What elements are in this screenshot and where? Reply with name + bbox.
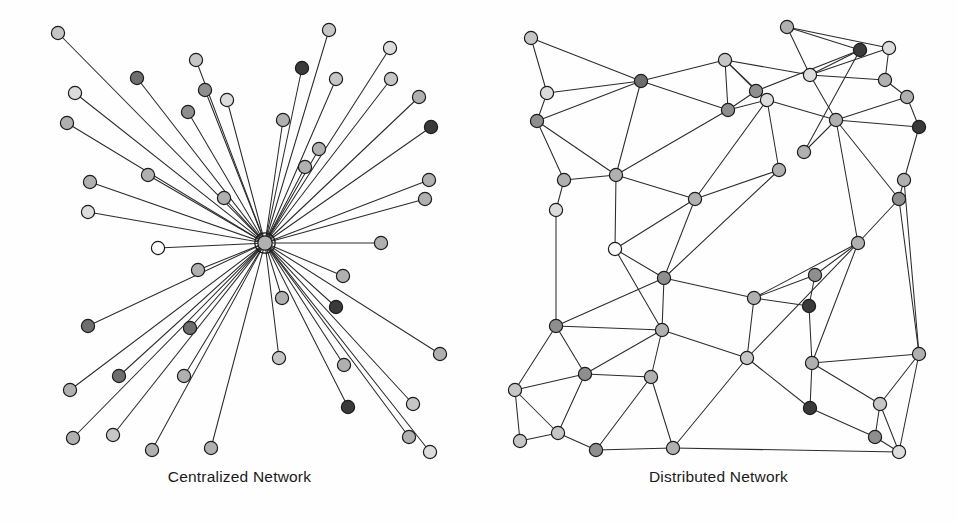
- network-node[interactable]: [322, 23, 335, 36]
- network-node[interactable]: [655, 323, 668, 336]
- network-node[interactable]: [68, 86, 81, 99]
- network-node[interactable]: [337, 358, 350, 371]
- network-edge: [615, 199, 695, 249]
- network-edge: [767, 100, 779, 170]
- network-node[interactable]: [797, 145, 810, 158]
- network-node[interactable]: [513, 434, 526, 447]
- network-node[interactable]: [204, 441, 217, 454]
- network-node[interactable]: [151, 241, 164, 254]
- network-node[interactable]: [402, 430, 415, 443]
- network-node[interactable]: [66, 431, 79, 444]
- network-node[interactable]: [829, 113, 842, 126]
- network-node[interactable]: [718, 53, 731, 66]
- network-node[interactable]: [557, 173, 570, 186]
- network-node[interactable]: [882, 41, 895, 54]
- network-node[interactable]: [892, 192, 905, 205]
- network-node[interactable]: [897, 173, 910, 186]
- network-node[interactable]: [329, 72, 342, 85]
- network-edge: [119, 243, 265, 376]
- network-node[interactable]: [406, 397, 419, 410]
- network-node[interactable]: [424, 120, 437, 133]
- network-node[interactable]: [276, 113, 289, 126]
- central-hub-node[interactable]: [258, 236, 272, 250]
- network-node[interactable]: [383, 41, 396, 54]
- network-node[interactable]: [803, 401, 816, 414]
- network-node[interactable]: [805, 356, 818, 369]
- network-node[interactable]: [851, 236, 864, 249]
- network-node[interactable]: [912, 120, 925, 133]
- network-node[interactable]: [220, 93, 233, 106]
- network-node[interactable]: [530, 114, 543, 127]
- network-node[interactable]: [749, 84, 762, 97]
- network-edge: [747, 298, 754, 358]
- network-node[interactable]: [551, 426, 564, 439]
- network-node[interactable]: [384, 72, 397, 85]
- network-node[interactable]: [433, 347, 446, 360]
- network-node[interactable]: [177, 369, 190, 382]
- network-node[interactable]: [298, 160, 311, 173]
- network-node[interactable]: [60, 116, 73, 129]
- network-node[interactable]: [181, 105, 194, 118]
- network-node[interactable]: [412, 90, 425, 103]
- network-node[interactable]: [272, 351, 285, 364]
- network-node[interactable]: [423, 445, 436, 458]
- network-node[interactable]: [772, 163, 785, 176]
- network-node[interactable]: [878, 73, 891, 86]
- network-node[interactable]: [112, 369, 125, 382]
- network-node[interactable]: [780, 20, 793, 33]
- network-node[interactable]: [51, 26, 64, 39]
- network-node[interactable]: [191, 263, 204, 276]
- network-node[interactable]: [578, 367, 591, 380]
- network-node[interactable]: [508, 383, 521, 396]
- network-node[interactable]: [295, 61, 308, 74]
- network-node[interactable]: [81, 205, 94, 218]
- network-node[interactable]: [609, 168, 622, 181]
- network-node[interactable]: [145, 443, 158, 456]
- network-node[interactable]: [747, 291, 760, 304]
- network-node[interactable]: [106, 428, 119, 441]
- network-node[interactable]: [374, 236, 387, 249]
- network-node[interactable]: [336, 269, 349, 282]
- network-node[interactable]: [873, 397, 886, 410]
- network-node[interactable]: [549, 319, 562, 332]
- network-node[interactable]: [657, 271, 670, 284]
- network-node[interactable]: [189, 53, 202, 66]
- network-node[interactable]: [81, 319, 94, 332]
- network-node[interactable]: [549, 203, 562, 216]
- network-node[interactable]: [892, 445, 905, 458]
- network-node[interactable]: [341, 400, 354, 413]
- network-node[interactable]: [217, 191, 230, 204]
- network-node[interactable]: [721, 103, 734, 116]
- network-node[interactable]: [524, 31, 537, 44]
- network-node[interactable]: [130, 71, 143, 84]
- network-node[interactable]: [868, 430, 881, 443]
- caption-distributed: Distributed Network: [479, 468, 958, 486]
- network-node[interactable]: [141, 168, 154, 181]
- network-node[interactable]: [63, 383, 76, 396]
- network-node[interactable]: [853, 43, 866, 56]
- network-node[interactable]: [803, 68, 816, 81]
- network-node[interactable]: [418, 192, 431, 205]
- network-node[interactable]: [900, 90, 913, 103]
- network-edge: [664, 170, 779, 278]
- network-node[interactable]: [608, 242, 621, 255]
- network-node[interactable]: [688, 192, 701, 205]
- network-node[interactable]: [540, 86, 553, 99]
- network-node[interactable]: [634, 74, 647, 87]
- network-node[interactable]: [275, 291, 288, 304]
- network-node[interactable]: [312, 142, 325, 155]
- network-node[interactable]: [912, 347, 925, 360]
- network-node[interactable]: [644, 370, 657, 383]
- network-node[interactable]: [183, 321, 196, 334]
- network-node[interactable]: [198, 83, 211, 96]
- network-node[interactable]: [422, 173, 435, 186]
- network-node[interactable]: [329, 300, 342, 313]
- network-node[interactable]: [666, 441, 679, 454]
- network-node[interactable]: [83, 175, 96, 188]
- network-node[interactable]: [760, 93, 773, 106]
- network-node[interactable]: [808, 268, 821, 281]
- network-node[interactable]: [740, 351, 753, 364]
- network-node[interactable]: [589, 443, 602, 456]
- network-edge: [73, 243, 265, 438]
- network-node[interactable]: [802, 299, 815, 312]
